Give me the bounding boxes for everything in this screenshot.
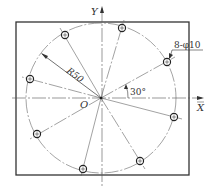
- hole-7: [136, 157, 143, 164]
- y-axis-arrow-icon: [100, 6, 104, 13]
- radius-dimension: R50: [41, 53, 101, 98]
- x-axis-arrow-icon: [197, 96, 204, 100]
- angle-label: 30°: [130, 87, 146, 97]
- hole-5: [170, 113, 177, 120]
- angle-dimension: 30°: [124, 84, 146, 98]
- hole-3: [163, 58, 170, 65]
- hole-4: [26, 75, 33, 82]
- x-axis-label: X: [196, 102, 205, 113]
- radius-label: R50: [64, 65, 86, 85]
- y-axis-label: Y: [91, 6, 99, 17]
- hole-2: [61, 31, 68, 38]
- origin-label: O: [80, 99, 88, 110]
- bolt-circle-drawing: X Y R50 30° O 8-φ10: [0, 0, 218, 192]
- hole-8: [79, 165, 86, 172]
- hole-callout-label: 8-φ10: [174, 40, 201, 50]
- origin-point: [100, 97, 103, 100]
- hole-callout: 8-φ10: [169, 40, 203, 59]
- hole-6: [33, 130, 40, 137]
- hole-1: [118, 24, 125, 31]
